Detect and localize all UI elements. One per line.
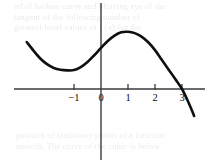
- cubic-plot: [0, 0, 212, 165]
- x-tick-label-0: 0: [93, 92, 109, 103]
- x-tick-label-2: 2: [147, 92, 163, 103]
- figure-root: ed of broken curve and blurring eye of t…: [0, 0, 212, 165]
- x-tick-label-minus-1: −1: [66, 92, 82, 103]
- x-tick-label-3: 3: [174, 92, 190, 103]
- cubic-curve: [27, 32, 194, 116]
- x-tick-label-1: 1: [120, 92, 136, 103]
